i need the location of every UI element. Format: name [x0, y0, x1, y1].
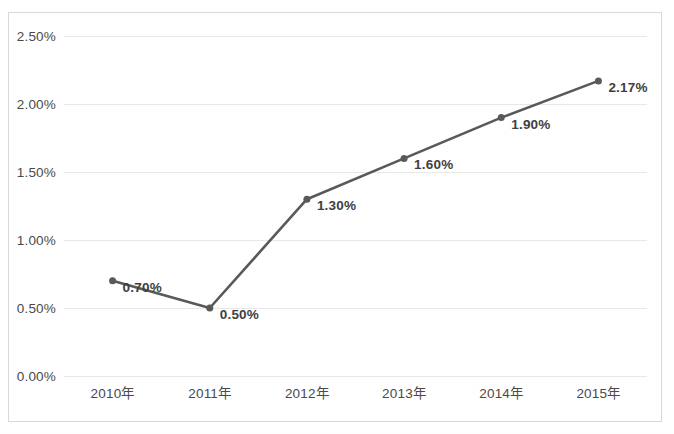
data-point-label: 2.17%	[608, 79, 647, 94]
y-axis: 0.00%0.50%1.00%1.50%2.00%2.50%	[0, 36, 56, 376]
y-axis-tick-label: 2.00%	[17, 97, 56, 112]
y-axis-tick-label: 2.50%	[17, 29, 56, 44]
x-axis-tick-label: 2012年	[285, 382, 329, 402]
data-point-label: 1.60%	[414, 157, 453, 172]
y-axis-tick-label: 0.00%	[17, 369, 56, 384]
data-point-marker[interactable]	[498, 114, 505, 121]
data-point-label: 1.90%	[511, 116, 550, 131]
data-point-label: 1.30%	[317, 198, 356, 213]
data-point-marker[interactable]	[401, 155, 408, 162]
line-chart: 0.00%0.50%1.00%1.50%2.00%2.50% 0.70%0.50…	[0, 0, 674, 434]
x-axis-tick-label: 2015年	[576, 382, 620, 402]
x-axis-tick-label: 2010年	[91, 382, 135, 402]
plot-area: 0.70%0.50%1.30%1.60%1.90%2.17%	[64, 36, 647, 376]
data-point-label: 0.50%	[220, 307, 259, 322]
x-axis-tick-label: 2013年	[382, 382, 426, 402]
data-point-marker[interactable]	[206, 305, 213, 312]
x-axis-tick-label: 2014年	[479, 382, 523, 402]
y-axis-tick-label: 0.50%	[17, 301, 56, 316]
x-axis-tick-label: 2011年	[188, 382, 231, 402]
y-axis-tick-label: 1.00%	[17, 233, 56, 248]
data-point-marker[interactable]	[595, 77, 602, 84]
gridline	[64, 376, 647, 377]
data-point-marker[interactable]	[109, 277, 116, 284]
y-axis-tick-label: 1.50%	[17, 165, 56, 180]
data-point-label: 0.70%	[123, 279, 162, 294]
x-axis: 2010年2011年2012年2013年2014年2015年	[64, 382, 647, 408]
series-polyline	[113, 81, 599, 308]
data-point-marker[interactable]	[303, 196, 310, 203]
